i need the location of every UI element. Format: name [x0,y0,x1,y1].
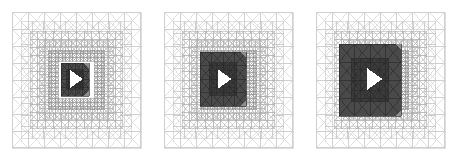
panel-3 [0,0,457,159]
mesh-refinement-figure [0,0,457,159]
